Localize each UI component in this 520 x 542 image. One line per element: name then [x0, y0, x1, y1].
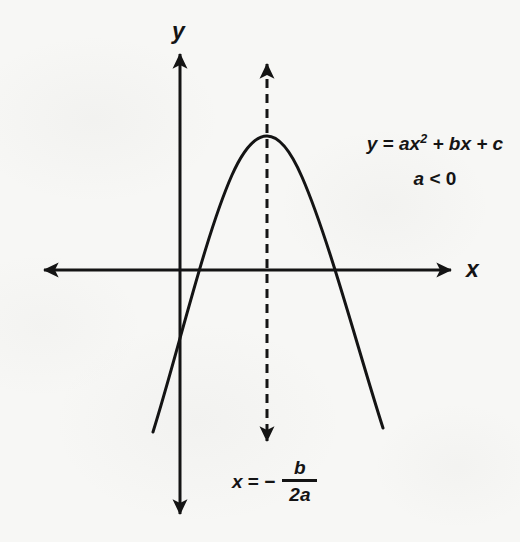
- equation-lhs: y: [367, 133, 378, 154]
- vertex-formula-lhs: x = −: [232, 472, 275, 491]
- condition-variable: a: [414, 168, 425, 189]
- condition-value: 0: [446, 168, 457, 189]
- x-axis-label: x: [466, 258, 479, 281]
- fraction-b-over-2a: b 2a: [282, 458, 317, 504]
- equation-equals: =: [377, 133, 399, 154]
- parabola-figure: y x y = ax2 + bx + c a < 0 x = − b 2a: [0, 0, 520, 542]
- equation-term-c: + c: [471, 133, 503, 154]
- condition-relation: <: [424, 168, 446, 189]
- quadratic-equation-text: y = ax2 + bx + c: [352, 133, 518, 153]
- vertex-minus-sign: −: [264, 471, 275, 492]
- vertex-equals: =: [243, 471, 265, 492]
- vertex-variable: x: [232, 471, 243, 492]
- equation-term-a: ax: [399, 133, 420, 154]
- equation-annotation: y = ax2 + bx + c a < 0: [352, 133, 518, 188]
- y-axis-label: y: [172, 20, 185, 43]
- fraction-numerator: b: [287, 458, 313, 479]
- axis-of-symmetry-formula: x = − b 2a: [232, 458, 317, 504]
- equation-term-b: + bx: [427, 133, 471, 154]
- coefficient-condition-text: a < 0: [352, 169, 518, 188]
- fraction-denominator: 2a: [282, 482, 317, 504]
